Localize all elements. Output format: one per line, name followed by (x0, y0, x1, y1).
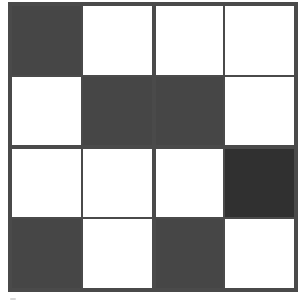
center-horizontal-divider (8, 145, 298, 149)
grid-cell-r3-c4 (225, 148, 294, 217)
grid-cell-r4-c1 (12, 219, 81, 288)
grid-cell-r2-c4 (225, 77, 294, 146)
grid-cell-r3-c1 (12, 148, 81, 217)
grid-cell-r2-c3 (154, 77, 223, 146)
grid-cell-r2-c1 (12, 77, 81, 146)
grid-cell-r1-c4 (225, 6, 294, 75)
grid-cell-r4-c3 (154, 219, 223, 288)
grid-cell-r1-c1 (12, 6, 81, 75)
stray-mark (10, 298, 16, 300)
grid-cell-r4-c2 (83, 219, 152, 288)
grid-cell-r1-c2 (83, 6, 152, 75)
grid-cell-r1-c3 (154, 6, 223, 75)
grid-cell-r3-c2 (83, 148, 152, 217)
grid-cell-r4-c4 (225, 219, 294, 288)
grid-cell-r3-c3 (154, 148, 223, 217)
grid-cell-r2-c2 (83, 77, 152, 146)
